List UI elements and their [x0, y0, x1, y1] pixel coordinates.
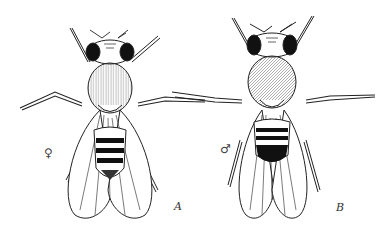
- panel-label-b: B: [336, 201, 344, 214]
- female-fly-drawing: [20, 28, 205, 218]
- drosophila-illustration: [0, 0, 387, 235]
- panel-label-a: A: [174, 200, 182, 213]
- male-symbol: ♂: [220, 142, 231, 156]
- male-fly-drawing: [172, 16, 375, 218]
- female-symbol: ♀: [44, 146, 53, 160]
